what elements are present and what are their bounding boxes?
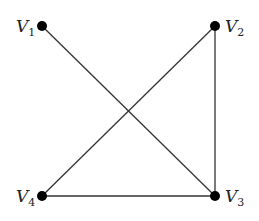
node-v2 <box>210 21 220 31</box>
node-v1 <box>37 21 47 31</box>
graph-diagram: V1 V2 V3 V4 <box>0 0 259 221</box>
node-v3 <box>210 191 220 201</box>
label-v3: V3 <box>225 186 244 209</box>
label-v1: V1 <box>16 16 35 39</box>
node-v4 <box>37 191 47 201</box>
label-v4: V4 <box>16 186 35 209</box>
label-v2: V2 <box>225 16 244 39</box>
